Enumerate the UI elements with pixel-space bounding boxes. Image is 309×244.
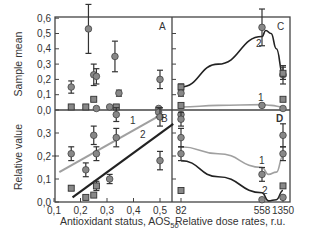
y-tick-label-a: 0,2	[37, 74, 51, 85]
data-point-c	[280, 96, 286, 102]
data-point-c	[280, 105, 287, 112]
square-marker	[83, 104, 89, 110]
y-tick-label-a: 0,5	[37, 28, 51, 39]
data-point-b	[68, 185, 74, 191]
data-point-d	[280, 124, 287, 147]
square-marker	[178, 84, 184, 90]
square-marker	[178, 188, 184, 194]
circle-marker	[178, 150, 185, 157]
circle-marker	[280, 105, 287, 112]
circle-marker	[93, 150, 100, 157]
data-point-d	[280, 194, 287, 201]
y-tick-label-b: 0,2	[37, 151, 51, 162]
square-marker	[83, 194, 89, 200]
data-point-b	[93, 181, 99, 190]
circle-marker	[68, 84, 75, 91]
circle-marker	[68, 150, 75, 157]
circle-marker	[113, 134, 120, 141]
circle-marker	[93, 73, 100, 80]
data-point-a	[116, 90, 123, 97]
y-tick-label-b: 0,1	[37, 174, 51, 185]
square-marker	[68, 104, 74, 110]
chart: 0,00,10,20,30,40,50,60,00,10,20,30,10,20…	[0, 0, 309, 244]
circle-marker	[259, 196, 266, 203]
data-point-a	[157, 70, 164, 88]
circle-marker	[90, 132, 97, 139]
circle-marker	[112, 53, 119, 60]
circle-marker	[106, 176, 113, 183]
data-point-b	[91, 192, 97, 198]
y-tick-label-a: 0,3	[37, 59, 51, 70]
circle-marker	[259, 24, 266, 31]
panel-label-c: C	[277, 21, 284, 32]
data-point-a	[68, 81, 75, 93]
circle-marker	[93, 105, 100, 112]
circle-marker	[280, 194, 287, 201]
curve-label-c1: 1	[258, 92, 264, 103]
circle-marker	[178, 116, 185, 123]
series-line-c-2	[181, 30, 283, 87]
square-marker	[91, 96, 97, 102]
data-point-b	[83, 163, 90, 177]
circle-marker	[83, 167, 90, 174]
circle-marker	[259, 171, 266, 178]
xlabel-right: Relative dose rates, r.u.	[175, 215, 285, 227]
circle-marker	[106, 104, 113, 111]
data-point-b	[113, 128, 120, 146]
circle-marker	[157, 76, 164, 83]
y-tick-label-a: 0,1	[37, 89, 51, 100]
panel-label-d: D	[276, 113, 283, 124]
square-marker	[280, 183, 286, 189]
square-marker	[91, 192, 97, 198]
data-point-a	[93, 105, 100, 112]
data-point-b	[90, 126, 97, 144]
square-marker	[178, 102, 184, 108]
labels: Sample mean Relative value Antioxidant s…	[12, 21, 285, 230]
curve-label-b2: 2	[140, 129, 146, 140]
data-point-a	[83, 104, 89, 110]
square-marker	[280, 70, 286, 76]
data-point-c	[178, 90, 185, 97]
data-point-a	[91, 96, 97, 102]
y-tick-label-a: 0,4	[37, 43, 51, 54]
curve-label-d1: 1	[259, 155, 265, 166]
circle-marker	[85, 26, 92, 33]
y-tick-label-a: 0,6	[37, 13, 51, 24]
data-point-d	[280, 183, 286, 189]
circle-marker	[280, 132, 287, 139]
curve-label-c2: 2	[256, 38, 262, 49]
data-point-c	[178, 84, 184, 90]
curve-label-d2: 2	[262, 185, 268, 196]
marks	[59, 4, 286, 203]
square-marker	[93, 183, 99, 189]
circle-marker	[178, 134, 185, 141]
data-point-d	[259, 196, 266, 203]
ylabel-top: Sample mean	[12, 31, 24, 96]
data-point-d	[178, 147, 185, 161]
circle-marker	[113, 111, 120, 118]
panel-label-b: B	[161, 113, 168, 124]
regression-line-1	[59, 117, 157, 172]
circle-marker	[280, 150, 287, 157]
data-point-a	[68, 104, 74, 110]
circle-marker	[178, 90, 185, 97]
y-tick-label-b: 0,3	[37, 128, 51, 139]
circle-marker	[116, 90, 123, 97]
data-point-a	[85, 4, 92, 53]
square-marker	[68, 185, 74, 191]
series-line-c-1	[181, 105, 283, 107]
circle-marker	[259, 102, 266, 109]
xlabel-left-main: Antioxidant status, AOS	[60, 215, 170, 227]
series-line-d-2	[181, 161, 283, 201]
square-marker	[280, 96, 286, 102]
y-tick-label-a: 0,0	[37, 105, 51, 116]
data-point-b	[68, 147, 75, 161]
panel-label-a: A	[159, 21, 166, 32]
data-point-c	[259, 102, 266, 109]
ylabel-bottom: Relative value	[12, 124, 24, 190]
data-point-a	[106, 104, 113, 111]
curve-label-b1: 1	[130, 115, 136, 126]
data-point-c	[178, 102, 184, 108]
series-line-d-1	[181, 147, 283, 175]
circle-marker	[157, 157, 164, 164]
